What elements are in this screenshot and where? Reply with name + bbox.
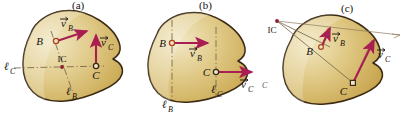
instantaneous-center-figure: (a) B C IC v B v C ℓ C ℓ B [0, 0, 412, 115]
panel-caption-a: (a) [72, 0, 85, 12]
point-label-B-b: B [159, 37, 166, 49]
line-label-lB-b-symbol: ℓ [162, 98, 167, 110]
line-label-lC-b-symbol: ℓ [211, 83, 216, 95]
point-label-B-c: B [306, 45, 313, 57]
point-IC-marker-c [275, 19, 279, 23]
point-C-marker-b [213, 69, 218, 74]
point-label-C-c: C [340, 85, 348, 97]
vector-label-vC-c-sub: C [385, 55, 391, 64]
panel-caption-b: (b) [199, 0, 212, 12]
point-B-marker-b [169, 40, 174, 45]
line-label-lB-b-sub: B [168, 105, 173, 114]
point-label-IC-c: IC [268, 25, 277, 35]
vector-label-vC-b-sub: C [248, 85, 254, 94]
line-label-lB-a-symbol: ℓ [66, 85, 71, 97]
point-label-B-a: B [36, 35, 43, 47]
point-IC-marker-a [60, 65, 64, 69]
point-label-C-b: C [203, 66, 211, 78]
point-C-marker-a [93, 63, 98, 68]
line-label-lC-a-symbol: ℓ [4, 60, 9, 72]
point-C-marker-c [350, 80, 355, 85]
partial-line-label-c-edge: C [262, 81, 268, 90]
point-B-marker-a [53, 38, 58, 43]
line-label-lC-a-sub: C [10, 67, 16, 76]
point-B-marker-c [319, 45, 324, 50]
vector-label-vB-c-sub: B [340, 39, 345, 48]
vector-label-vC-a-sub: C [108, 43, 114, 52]
point-label-C-a: C [92, 69, 100, 81]
point-label-IC-a: IC [58, 54, 67, 64]
vector-label-vB-a-sub: B [68, 24, 73, 33]
line-label-lC-b-sub: C [217, 90, 223, 99]
vector-label-vB-b-sub: B [197, 54, 202, 63]
line-label-lB-a-sub: B [72, 92, 77, 101]
panel-caption-c: (c) [341, 2, 354, 15]
